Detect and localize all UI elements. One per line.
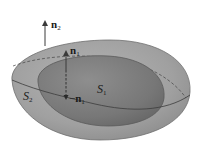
nested-surfaces-diagram: n2 n1 −n1 S1 S2 xyxy=(0,0,197,157)
n2-label: n2 xyxy=(51,18,61,32)
n2-arrowhead-icon xyxy=(42,20,48,26)
vector-n2: n2 xyxy=(42,18,61,46)
